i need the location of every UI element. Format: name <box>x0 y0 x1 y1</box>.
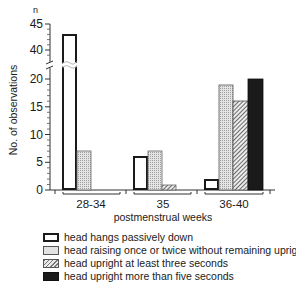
y-axis-title: No. of observations <box>7 65 19 155</box>
bar-raising-36-40 <box>219 85 233 190</box>
bar-group-35 <box>134 151 176 190</box>
y-tick-20: 20 <box>30 72 44 86</box>
bar-upright-5s-36-40 <box>248 79 263 190</box>
y-tick-15: 15 <box>30 100 44 114</box>
bar-group-36-40 <box>205 79 263 190</box>
legend-item-upright-3s: head upright at least three seconds <box>43 257 296 270</box>
legend-item-hangs-down: head hangs passively down <box>43 231 296 244</box>
legend-swatch-black <box>43 272 59 281</box>
y-unit-label: n <box>33 5 38 15</box>
x-tick-35: 35 <box>157 198 170 210</box>
bar-upright-3s-35 <box>162 185 176 190</box>
x-tick-labels: 28-34 35 36-40 <box>76 198 248 210</box>
bar-hangs-down-36-40 <box>205 180 218 189</box>
legend-swatch-hatched <box>43 259 59 268</box>
bar-raising-28-34 <box>77 151 91 190</box>
x-axis <box>50 190 275 194</box>
y-tick-10: 10 <box>30 128 44 142</box>
legend-item-upright-5s: head upright more than five seconds <box>43 270 296 283</box>
bar-hangs-down-28-34 <box>63 35 76 189</box>
y-tick-5: 5 <box>36 155 43 169</box>
y-tick-labels: 45 40 20 15 10 5 0 <box>30 17 44 197</box>
y-axis <box>45 24 53 190</box>
legend: head hangs passively down head raising o… <box>43 231 296 283</box>
x-tick-36-40: 36-40 <box>219 198 248 210</box>
y-tick-45: 45 <box>30 17 44 31</box>
legend-item-raising: head raising once or twice without remai… <box>43 244 296 257</box>
y-tick-40: 40 <box>30 43 44 57</box>
x-tick-28-34: 28-34 <box>76 198 106 210</box>
bar-chart: 45 40 20 15 10 5 0 n No. of observations <box>0 0 296 230</box>
bar-raising-35 <box>148 151 162 190</box>
x-axis-title: postmenstrual weeks <box>114 211 213 223</box>
y-tick-0: 0 <box>36 183 43 197</box>
legend-swatch-white <box>43 233 59 242</box>
bar-group-28-34 <box>62 35 91 190</box>
bar-upright-3s-36-40 <box>233 101 248 190</box>
legend-swatch-dotted <box>43 246 59 255</box>
bar-hangs-down-35 <box>134 157 147 189</box>
